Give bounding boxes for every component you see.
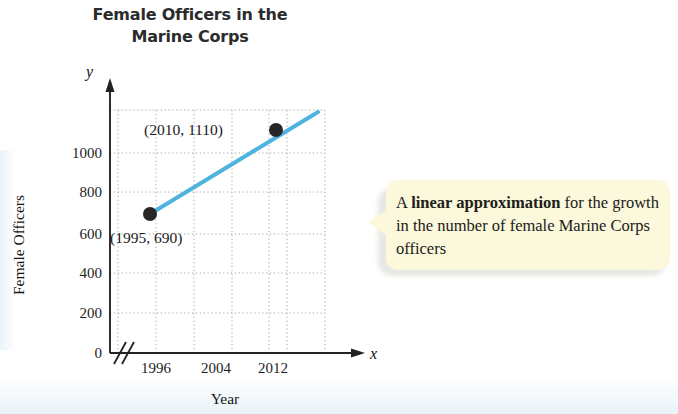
callout-box: A linear approximation for the growth in… (368, 180, 670, 276)
y-tick-label-400: 400 (80, 265, 103, 281)
y-axis-title: Female Officers (10, 195, 27, 295)
callout-tail-icon (368, 208, 390, 238)
y-tick-label-600: 600 (80, 226, 103, 242)
y-tick-label-0: 0 (95, 345, 103, 361)
callout-text-before: A (396, 193, 411, 212)
callout-text: A linear approximation for the growth in… (396, 191, 666, 260)
data-point-1995 (143, 207, 157, 221)
y-tick-label-200: 200 (80, 305, 103, 321)
y-tick-label-1000: 1000 (72, 145, 102, 161)
x-tick-label-1996: 1996 (141, 360, 172, 376)
figure-page: Female Officers in the Marine Corps (0, 0, 678, 414)
x-tick-label-2004: 2004 (201, 360, 232, 376)
y-axis-variable-label: y (84, 63, 94, 81)
y-tick-label-800: 800 (80, 184, 103, 200)
data-point-label-2010: (2010, 1110) (144, 121, 223, 139)
data-point-label-1995: (1995, 690) (110, 229, 182, 247)
x-axis-variable-label: x (369, 345, 377, 362)
x-axis-title: Year (211, 390, 240, 407)
x-tick-label-2012: 2012 (258, 360, 288, 376)
x-axis-arrowhead (351, 349, 365, 358)
data-point-2010 (269, 123, 283, 137)
y-gridlines (110, 110, 325, 313)
y-axis-arrowhead (106, 78, 115, 92)
callout-text-emphasis: linear approximation (411, 193, 560, 212)
